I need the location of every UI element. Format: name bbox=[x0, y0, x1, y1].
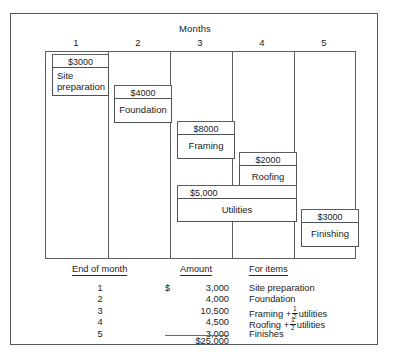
cell-amount: $3,000 bbox=[165, 283, 229, 293]
month-tick-2: 2 bbox=[107, 37, 169, 48]
task-bar-utilities: Utilities bbox=[177, 198, 297, 222]
cell-item-text: Finishes bbox=[249, 329, 284, 339]
table-row: 1 $3,000 Site preparation bbox=[45, 283, 356, 294]
cell-amount-value: 3,000 bbox=[206, 283, 229, 293]
task-amount-roofing: $2000 bbox=[239, 152, 297, 166]
task-bar-site-preparation: Site preparation bbox=[52, 67, 109, 96]
summary-header-row: End of month Amount For items bbox=[45, 264, 356, 277]
column-header-for-items: For items bbox=[249, 264, 288, 276]
cell-month: 3 bbox=[72, 306, 128, 316]
task-bar-finishing: Finishing bbox=[301, 222, 359, 247]
cell-currency: $ bbox=[165, 283, 175, 293]
figure-frame: Months 1 2 3 4 5 $3000 Site preparation … bbox=[10, 13, 378, 345]
chart-plot-area: $3000 Site preparation $4000 Foundation … bbox=[45, 51, 356, 259]
task-bar-foundation: Foundation bbox=[114, 98, 172, 123]
cell-month: 5 bbox=[72, 329, 128, 339]
cell-amount-value: 4,500 bbox=[206, 317, 229, 327]
task-amount-framing: $8000 bbox=[177, 121, 235, 135]
cell-item-text: Foundation bbox=[249, 294, 296, 304]
month-tick-1: 1 bbox=[45, 37, 107, 48]
table-row: 2 4,000 Foundation bbox=[45, 294, 356, 305]
task-amount-foundation: $4000 bbox=[114, 85, 172, 99]
cell-amount: 4,000 bbox=[165, 294, 229, 304]
month-tick-5: 5 bbox=[293, 37, 355, 48]
cell-month: 4 bbox=[72, 317, 128, 327]
column-header-amount: Amount bbox=[180, 264, 212, 276]
chart-title: Months bbox=[11, 23, 379, 34]
cell-amount: 4,500 bbox=[165, 317, 229, 327]
column-header-end-of-month: End of month bbox=[72, 264, 127, 276]
total-amount: $25,000 bbox=[165, 336, 229, 346]
column-divider-2 bbox=[170, 52, 171, 258]
cell-item: Site preparation bbox=[249, 283, 315, 293]
task-amount-site-preparation: $3000 bbox=[52, 54, 109, 68]
summary-table: End of month Amount For items 1 $3,000 S… bbox=[45, 264, 356, 344]
month-tick-3: 3 bbox=[169, 37, 231, 48]
cell-amount-value: 10,500 bbox=[201, 306, 229, 316]
table-row: 4 4,500 Roofing +12utilities bbox=[45, 317, 356, 328]
cell-item-text: Site preparation bbox=[249, 283, 315, 293]
task-amount-finishing: $3000 bbox=[301, 209, 359, 223]
cell-amount-value: 4,000 bbox=[206, 294, 229, 304]
cell-item: Finishes bbox=[249, 329, 284, 339]
task-amount-utilities: $5,000 bbox=[177, 185, 297, 199]
task-bar-framing: Framing bbox=[177, 134, 235, 159]
cell-amount: 10,500 bbox=[165, 306, 229, 316]
cell-month: 1 bbox=[72, 283, 128, 293]
table-row: 3 10,500 Framing +12utilities bbox=[45, 306, 356, 317]
cell-item: Foundation bbox=[249, 294, 296, 304]
month-tick-4: 4 bbox=[231, 37, 293, 48]
cell-month: 2 bbox=[72, 294, 128, 304]
